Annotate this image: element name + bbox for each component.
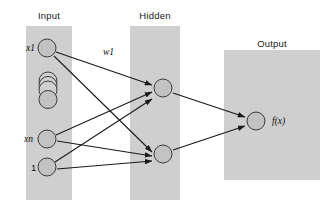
node-input-xn xyxy=(38,130,56,148)
diagram-canvas xyxy=(0,0,329,224)
neural-network-diagram: Input Hidden Output x1 xn 1 f(x) w1 xyxy=(0,0,329,224)
edge-bias-h2 xyxy=(57,161,152,169)
edge-xn-h2 xyxy=(57,141,152,156)
edge-label-w1: w1 xyxy=(103,47,114,57)
edge-bias-h1 xyxy=(55,99,152,162)
node-label-bias: 1 xyxy=(31,162,36,173)
node-ellipsis-stack-3 xyxy=(39,91,57,109)
edge-x1-h2 xyxy=(54,56,152,152)
connection-edges xyxy=(54,52,245,169)
node-input-bias xyxy=(38,158,56,176)
node-output-out xyxy=(247,112,265,130)
node-hidden-h1 xyxy=(154,79,172,97)
edge-xn-h1 xyxy=(56,92,152,135)
node-hidden-h2 xyxy=(154,145,172,163)
edge-h1-out xyxy=(173,93,245,117)
node-label-output-fx: f(x) xyxy=(272,116,285,126)
edge-h2-out xyxy=(173,126,245,150)
node-label-xn: xn xyxy=(24,134,33,144)
node-label-x1: x1 xyxy=(26,43,35,53)
node-input-x1 xyxy=(38,39,56,57)
